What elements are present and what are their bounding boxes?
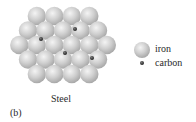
carbon-atom xyxy=(90,56,94,60)
iron-atoms-group xyxy=(10,7,116,83)
legend xyxy=(134,42,150,65)
panel-label: (b) xyxy=(10,108,22,118)
legend-label-carbon: carbon xyxy=(155,58,182,68)
legend-label-iron: iron xyxy=(155,44,171,54)
carbon-dot-icon xyxy=(140,61,144,65)
iron-atom xyxy=(28,65,46,83)
iron-atom xyxy=(80,65,98,83)
carbon-atom xyxy=(73,27,77,31)
iron-atom xyxy=(63,65,81,83)
iron-sphere-icon xyxy=(134,42,150,58)
figure-caption: Steel xyxy=(51,94,71,104)
carbon-atom xyxy=(63,51,67,55)
iron-atom xyxy=(45,65,63,83)
carbon-atom xyxy=(39,37,43,41)
